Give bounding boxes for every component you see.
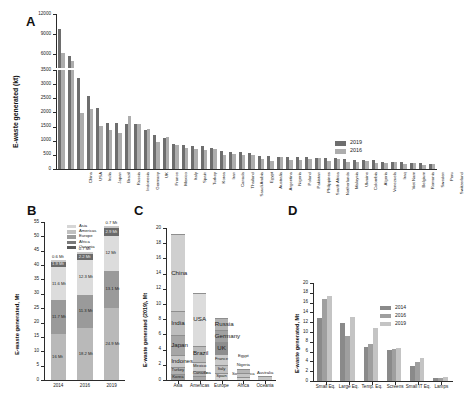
panel-a-label: A <box>26 14 35 29</box>
panel-c-tick: 20 <box>146 226 161 231</box>
tick <box>163 365 166 366</box>
tick <box>41 294 44 295</box>
panel-d-bar <box>443 377 448 381</box>
panel-a-lower-tick: 1500 <box>26 124 51 129</box>
panel-a-bar <box>213 149 216 170</box>
panel-d-tick: 10 <box>294 330 308 335</box>
panel-a-bar <box>413 163 416 169</box>
panel-a-bar <box>289 160 292 169</box>
tick <box>53 54 56 55</box>
panel-a-lower-tick: 3500 <box>26 68 51 73</box>
tick <box>310 303 313 304</box>
panel-c-xcat: Oceania <box>251 384 279 389</box>
panel-a-bar <box>137 124 140 169</box>
panel-a: A E-waste generated (kt) 12000 9000 6000… <box>0 0 461 195</box>
panel-a-bar <box>346 162 349 169</box>
panel-d-tick: 8 <box>294 339 308 344</box>
panel-b-segment-label: 0.7 Mt <box>105 221 117 225</box>
tick <box>41 323 44 324</box>
tick <box>163 334 166 335</box>
tick <box>310 381 313 382</box>
panel-d-tick: 20 <box>294 281 308 286</box>
panel-c-segment-label: France <box>215 357 229 361</box>
panel-a-bar <box>356 162 359 169</box>
panel-c: C E-waste generated (2019), Mt 024681012… <box>130 195 280 414</box>
panel-a-upper-tick-12000: 12000 <box>26 12 51 17</box>
panel-c-tick: 8 <box>146 317 161 322</box>
panel-a-bar <box>232 154 235 169</box>
panel-c-segment-label: Australia <box>248 371 282 375</box>
tick <box>53 141 56 142</box>
panel-a-bar <box>270 161 273 169</box>
tick <box>163 319 166 320</box>
panel-b-xcat: 2016 <box>72 384 99 389</box>
panel-a-bar <box>128 116 131 169</box>
tick <box>310 371 313 372</box>
panel-b-tick: 25 <box>20 306 39 311</box>
tick <box>41 279 44 280</box>
legend-swatch-oceania <box>67 246 76 249</box>
panel-a-bar <box>422 165 425 169</box>
tick <box>53 84 56 85</box>
panel-d-tick: 2 <box>294 369 308 374</box>
panel-a-bar <box>185 148 188 169</box>
panel-b-segment <box>77 252 92 254</box>
panel-c-tick: 0 <box>146 378 161 383</box>
panel-c-segment-label: Italy <box>215 367 229 371</box>
panel-d-label: D <box>288 203 297 218</box>
panel-a-bar-upper <box>61 53 64 68</box>
tick <box>163 228 166 229</box>
panel-d-tick: 14 <box>294 310 308 315</box>
panel-a-bar <box>90 109 93 170</box>
tick <box>41 380 44 381</box>
panel-c-segment-label: Brazil <box>193 350 207 356</box>
legend-label-2019: 2019 <box>350 140 362 145</box>
panel-b-tick: 0 <box>20 378 39 383</box>
panel-a-upper-tick-9000: 9000 <box>26 32 51 37</box>
tick <box>41 265 44 266</box>
tick <box>41 236 44 237</box>
panel-b-segment <box>51 260 66 262</box>
panel-a-lower-bars <box>57 70 437 169</box>
panel-c-tick: 12 <box>146 286 161 291</box>
panel-a-bar <box>327 161 330 169</box>
tick <box>310 283 313 284</box>
legend-label-2016: 2016 <box>350 148 362 153</box>
panel-a-lower-tick: 0 <box>26 167 51 172</box>
panel-b-tick: 55 <box>20 220 39 225</box>
panel-b-tick: 40 <box>20 263 39 268</box>
panel-a-lower-tick: 2500 <box>26 96 51 101</box>
panel-a-xaxis <box>56 169 437 170</box>
panel-a-bar <box>71 70 74 169</box>
tick <box>41 308 44 309</box>
panel-a-bar <box>175 145 178 169</box>
tick <box>41 222 44 223</box>
panel-c-segment-label: Turkey <box>171 368 185 372</box>
tick <box>53 127 56 128</box>
panel-d-tick: 16 <box>294 300 308 305</box>
legend-swatch-europe <box>67 235 76 238</box>
panel-d: D E-waste generated, Mt 0246810121416182… <box>280 195 461 414</box>
panel-a-bar-upper <box>71 61 74 68</box>
panel-c-segment-label: Russia <box>215 321 229 327</box>
panel-a-bar <box>432 164 435 169</box>
panel-a-bar <box>280 157 283 169</box>
panel-b-segment-label: 11.6 Mt <box>52 282 66 286</box>
panel-a-bar <box>261 159 264 169</box>
panel-b-xcat: 2019 <box>98 384 125 389</box>
panel-a-bar <box>403 164 406 169</box>
tick <box>41 251 44 252</box>
panel-b-segment <box>104 226 119 228</box>
panel-c-segment <box>193 376 207 380</box>
panel-a-bar <box>99 126 102 169</box>
panel-c-segment-label: UK <box>215 345 229 351</box>
panel-a-bar <box>156 142 159 169</box>
panel-c-tick: 14 <box>146 271 161 276</box>
tick <box>163 274 166 275</box>
panel-b-segment-label: 13.1 Mt <box>105 287 119 291</box>
panel-c-segment-label: Korea <box>171 375 185 379</box>
legend-swatch-2016 <box>380 314 391 318</box>
legend-swatch-asia <box>67 225 76 228</box>
panel-c-segment <box>258 376 272 380</box>
tick <box>310 322 313 323</box>
